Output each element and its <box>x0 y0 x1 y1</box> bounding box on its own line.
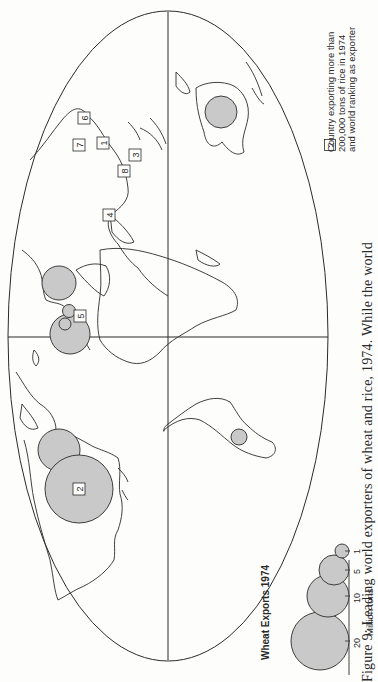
new-zealand-outline <box>246 62 264 104</box>
svg-text:2: 2 <box>75 486 85 491</box>
legend-circle-20 <box>291 612 349 670</box>
svg-text:5: 5 <box>76 313 86 318</box>
wheat-legend-scale: 20 10 5 1 <box>291 544 362 675</box>
wheat-export-circles <box>38 96 247 523</box>
south-america-outline <box>164 398 276 458</box>
legend-circle-5 <box>319 555 349 585</box>
wheat-circle-europe-small-b <box>59 318 71 330</box>
madagascar-outline <box>196 250 220 266</box>
wheat-circle-argentina <box>231 429 247 445</box>
wheat-circle-australia <box>205 96 237 128</box>
wheat-circle-ussr <box>42 266 76 300</box>
svg-text:3: 3 <box>131 152 141 157</box>
rice-rank-box-7: 7 <box>73 139 85 151</box>
figure-caption-text: Figure 9: Leading world exporters of whe… <box>360 242 375 682</box>
rice-rank-box-3: 3 <box>129 149 141 161</box>
rice-rank-box-2: 2 <box>73 483 85 495</box>
svg-text:6: 6 <box>80 115 90 120</box>
rice-rank-box-4: 4 <box>103 209 115 221</box>
rice-rank-box-8: 8 <box>118 165 130 177</box>
rice-rank-box-1: 1 <box>97 137 109 149</box>
southeast-asia-islands <box>128 118 166 150</box>
figure-page: 6 7 1 3 8 4 5 <box>0 0 378 682</box>
svg-text:7: 7 <box>75 142 85 147</box>
rice-legend-line-1: Country exporting more than <box>326 27 337 152</box>
svg-text:4: 4 <box>105 212 115 217</box>
wheat-legend-title: Wheat Exports 1974 <box>260 565 271 660</box>
figure-caption: Figure 9: Leading world exporters of whe… <box>360 242 376 682</box>
new-guinea-outline <box>176 72 190 94</box>
rice-rank-box-6: 6 <box>78 112 90 124</box>
greenland-outline <box>20 404 38 429</box>
arabia-outline <box>76 264 110 296</box>
svg-text:8: 8 <box>120 168 130 173</box>
rice-rank-box-5: 5 <box>74 310 86 322</box>
wheat-legend-title-text: Wheat Exports 1974 <box>260 565 271 660</box>
rice-rank-boxes: 6 7 1 3 8 4 5 <box>73 112 141 495</box>
rice-legend: Country exporting more than 200,000 tons… <box>326 27 358 152</box>
svg-text:1: 1 <box>99 140 109 145</box>
british-isles-outline <box>33 350 39 366</box>
world-map: 6 7 1 3 8 4 5 <box>0 0 378 682</box>
rice-legend-line-3: and world ranking as exporter <box>347 27 358 152</box>
wheat-circle-europe-small-a <box>63 305 76 318</box>
